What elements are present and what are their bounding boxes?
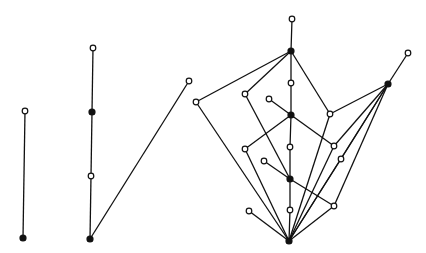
graph-3-nodes bbox=[193, 16, 411, 244]
edge bbox=[23, 111, 25, 238]
open-vertex bbox=[331, 203, 337, 209]
open-vertex bbox=[287, 207, 293, 213]
filled-vertex bbox=[287, 176, 293, 182]
open-vertex bbox=[88, 173, 94, 179]
edge bbox=[291, 19, 292, 51]
open-vertex bbox=[90, 45, 96, 51]
edge bbox=[290, 115, 291, 147]
graph-2-edges bbox=[90, 48, 189, 239]
open-vertex bbox=[287, 144, 293, 150]
filled-vertex bbox=[20, 235, 26, 241]
edge bbox=[334, 84, 388, 206]
edge bbox=[289, 84, 388, 241]
edge bbox=[291, 51, 330, 114]
graph-3-edges bbox=[196, 19, 408, 241]
filled-vertex bbox=[89, 109, 95, 115]
edge bbox=[196, 102, 289, 241]
open-vertex bbox=[288, 80, 294, 86]
open-vertex bbox=[242, 91, 248, 97]
filled-vertex bbox=[385, 81, 391, 87]
open-vertex bbox=[242, 146, 248, 152]
open-vertex bbox=[405, 50, 411, 56]
open-vertex bbox=[327, 111, 333, 117]
edge bbox=[90, 81, 189, 239]
open-vertex bbox=[338, 156, 344, 162]
open-vertex bbox=[261, 158, 267, 164]
open-vertex bbox=[331, 143, 337, 149]
diagram-canvas bbox=[0, 0, 426, 253]
open-vertex bbox=[22, 108, 28, 114]
edge bbox=[269, 99, 291, 115]
filled-vertex bbox=[87, 236, 93, 242]
open-vertex bbox=[246, 208, 252, 214]
open-vertex bbox=[289, 16, 295, 22]
edges-layer bbox=[23, 19, 408, 241]
edge bbox=[334, 84, 388, 146]
edge bbox=[264, 161, 290, 179]
graph-1-edges bbox=[23, 111, 25, 238]
edge bbox=[92, 48, 93, 112]
edge bbox=[91, 112, 92, 176]
open-vertex bbox=[266, 96, 272, 102]
open-vertex bbox=[186, 78, 192, 84]
edge bbox=[245, 115, 291, 149]
graph-2-nodes bbox=[87, 45, 192, 242]
edge bbox=[289, 146, 334, 241]
edge bbox=[90, 176, 91, 239]
edge bbox=[249, 211, 289, 241]
open-vertex bbox=[193, 99, 199, 105]
edge bbox=[388, 53, 408, 84]
filled-vertex bbox=[288, 48, 294, 54]
edge bbox=[289, 206, 334, 241]
filled-vertex bbox=[288, 112, 294, 118]
edge bbox=[245, 94, 290, 179]
filled-vertex bbox=[286, 238, 292, 244]
edge bbox=[289, 114, 330, 241]
